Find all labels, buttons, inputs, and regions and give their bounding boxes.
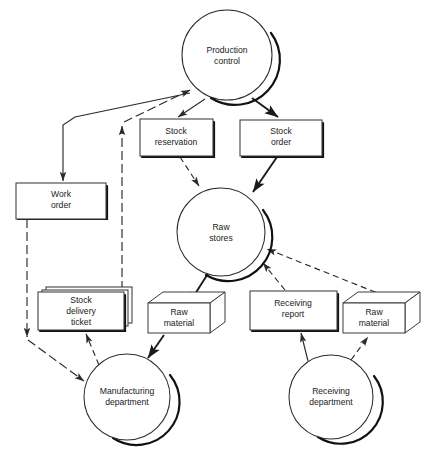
raw-material-left-label-1: Raw: [170, 307, 188, 317]
edge-pc-to-stock-reservation: [178, 99, 205, 117]
production-control-label-1: Production: [206, 45, 247, 55]
node-raw-material-right[interactable]: Raw material: [343, 292, 420, 333]
production-control-label-2: control: [214, 56, 240, 66]
node-raw-stores[interactable]: Raw stores: [177, 188, 272, 281]
raw-stores-circle[interactable]: [177, 188, 265, 276]
node-receiving-department[interactable]: Receiving department: [289, 355, 383, 444]
manufacturing-department-label-1: Manufacturing: [100, 386, 155, 396]
stock-order-label-1: Stock: [270, 126, 292, 136]
receiving-report-label-1: Receiving: [274, 298, 312, 308]
work-order-label-1: Work: [51, 189, 72, 199]
work-order-label-2: order: [51, 200, 71, 210]
node-production-control[interactable]: Production control: [182, 10, 280, 105]
edge-manufacturing-to-stock-delivery-ticket: [86, 334, 99, 365]
node-raw-material-left[interactable]: Raw material: [148, 292, 225, 333]
edge-receiving-to-raw-material-right: [351, 337, 368, 360]
raw-stores-label-1: Raw: [212, 222, 230, 232]
node-work-order[interactable]: Work order: [16, 183, 107, 219]
raw-material-left-label-2: material: [164, 318, 195, 328]
raw-stores-label-2: stores: [209, 233, 232, 243]
edge-stock-order-to-raw-stores: [253, 157, 277, 192]
flow-diagram-canvas: Production control Stock reservation Sto…: [0, 0, 429, 458]
stock-reservation-label-1: Stock: [165, 126, 187, 136]
stock-reservation-label-2: reservation: [155, 137, 198, 147]
manufacturing-department-label-2: department: [105, 397, 149, 407]
receiving-department-label-2: department: [309, 397, 353, 407]
edge-receiving-to-receiving-report: [301, 333, 308, 361]
node-receiving-report[interactable]: Receiving report: [250, 291, 338, 331]
node-manufacturing-department[interactable]: Manufacturing department: [84, 354, 180, 445]
stock-delivery-ticket-label-1: Stock: [70, 295, 92, 305]
receiving-report-label-2: report: [282, 309, 305, 319]
stock-delivery-ticket-label-2: delivery: [66, 306, 96, 316]
receiving-department-label-1: Receiving: [312, 386, 350, 396]
stock-order-label-2: order: [271, 137, 291, 147]
node-stock-reservation[interactable]: Stock reservation: [140, 119, 214, 157]
edge-raw-material-left-to-manufacturing: [148, 335, 164, 358]
raw-material-right-label-1: Raw: [365, 307, 383, 317]
edge-receiving-report-to-raw-stores: [263, 263, 285, 290]
flow-diagram-svg: Production control Stock reservation Sto…: [0, 0, 429, 458]
edge-stock-reservation-to-raw-stores: [180, 157, 199, 186]
stock-delivery-ticket-label-3: ticket: [71, 317, 92, 327]
raw-material-right-label-2: material: [359, 318, 390, 328]
node-stock-delivery-ticket[interactable]: Stock delivery ticket: [38, 287, 132, 331]
node-stock-order[interactable]: Stock order: [240, 120, 323, 157]
production-control-circle[interactable]: [182, 10, 272, 100]
